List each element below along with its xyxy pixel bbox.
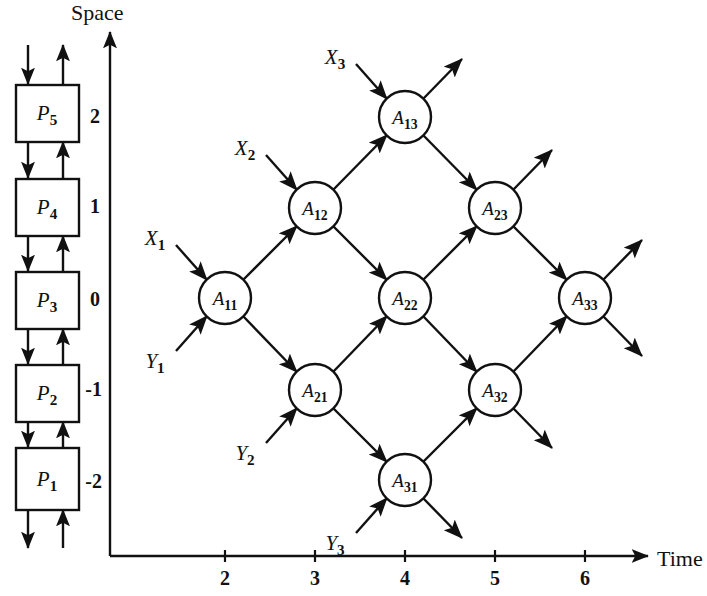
x-tick-6: 6 <box>580 567 590 589</box>
y-axis-label: Space <box>71 0 124 25</box>
processor-link-p5-p4 <box>28 142 63 178</box>
output-arrow-a31 <box>423 498 462 538</box>
node-a33[interactable]: A33 <box>559 272 611 324</box>
node-a12[interactable]: A12 <box>289 182 341 234</box>
edge-a22-a23 <box>423 226 477 280</box>
processor-external-bottom-arrows <box>28 510 63 548</box>
output-arrow-a33-down <box>603 316 642 356</box>
processor-link-p2-p1 <box>28 422 63 447</box>
node-a11[interactable]: A11 <box>199 272 251 324</box>
y-tick-0: 0 <box>90 288 100 310</box>
input-label-x3: X3 <box>324 45 346 72</box>
edge-a22-a32 <box>423 316 477 372</box>
systolic-array-figure: P5 P4 P3 P2 <box>0 0 707 596</box>
input-label-y1: Y1 <box>145 349 164 376</box>
processor-link-p4-p3 <box>28 236 63 271</box>
processor-box-p4[interactable]: P4 <box>16 179 79 236</box>
input-arrow-y3 <box>356 498 387 533</box>
input-label-y2: Y2 <box>235 441 254 468</box>
figure-canvas: P5 P4 P3 P2 <box>0 0 707 596</box>
processor-box-p5[interactable]: P5 <box>16 85 79 142</box>
y-tick-neg2: -2 <box>85 470 102 492</box>
node-a23[interactable]: A23 <box>469 182 521 234</box>
edge-a32-a33 <box>513 316 567 372</box>
processor-external-top-arrows <box>28 45 63 84</box>
output-arrow-a32 <box>513 408 552 448</box>
x-tick-4: 4 <box>400 567 410 589</box>
input-label-x2: X2 <box>234 136 255 163</box>
input-arrow-x3 <box>356 64 387 99</box>
x-axis-label: Time <box>657 546 703 571</box>
node-a31[interactable]: A31 <box>379 454 431 506</box>
output-arrow-a33 <box>603 240 642 280</box>
processor-link-p3-p2 <box>28 329 63 364</box>
edge-a11-a12 <box>243 226 297 280</box>
node-a21[interactable]: A21 <box>289 364 341 416</box>
edge-a12-a22 <box>333 226 387 280</box>
y-tick-neg1: -1 <box>85 378 102 400</box>
edge-a12-a13 <box>333 135 387 190</box>
edge-a21-a31 <box>333 408 387 462</box>
node-a32[interactable]: A32 <box>469 364 521 416</box>
processor-box-p3[interactable]: P3 <box>16 272 79 329</box>
edge-a21-a22 <box>333 316 387 372</box>
processor-box-p1[interactable]: P1 <box>16 448 79 510</box>
processor-box-p2[interactable]: P2 <box>16 365 79 422</box>
edge-a23-a33 <box>513 226 567 280</box>
x-tick-3: 3 <box>310 567 320 589</box>
output-arrow-a23 <box>513 150 552 190</box>
edge-a13-a23 <box>423 135 477 190</box>
node-a22[interactable]: A22 <box>379 272 431 324</box>
edge-a11-a21 <box>243 316 297 372</box>
output-arrow-a13 <box>423 59 462 99</box>
input-arrow-x1 <box>176 245 207 280</box>
input-label-x1: X1 <box>144 226 165 253</box>
y-tick-1: 1 <box>90 195 100 217</box>
input-arrow-x2 <box>266 155 297 190</box>
x-tick-2: 2 <box>220 567 230 589</box>
y-tick-2: 2 <box>90 105 100 127</box>
input-label-y3: Y3 <box>325 531 345 558</box>
input-arrow-y2 <box>266 408 297 443</box>
edge-a31-a32 <box>423 408 477 462</box>
processor-array: P5 P4 P3 P2 <box>16 45 79 548</box>
node-a13[interactable]: A13 <box>379 91 431 143</box>
x-tick-5: 5 <box>490 567 500 589</box>
input-arrow-y1 <box>176 316 207 351</box>
